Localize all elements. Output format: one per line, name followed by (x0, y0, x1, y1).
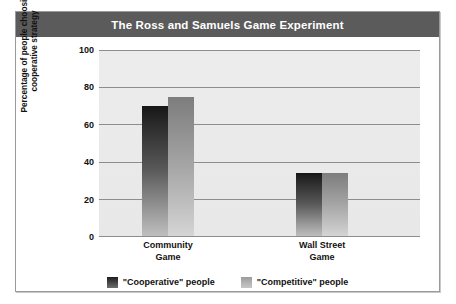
y-axis-tick-labels: 020406080100 (60, 50, 94, 237)
gridline (99, 87, 420, 88)
y-axis-tick-label: 20 (64, 195, 94, 205)
legend-item[interactable]: "Competitive" people (241, 277, 349, 288)
gridline (99, 50, 420, 51)
y-axis-tick-label: 60 (64, 120, 94, 130)
legend-label: "Competitive" people (257, 277, 349, 287)
chart-body: Percentage of people choosing cooperativ… (16, 37, 439, 293)
chart-legend: "Cooperative" people"Competitive" people (16, 273, 439, 291)
legend-color-swatch (241, 277, 252, 288)
legend-color-swatch (107, 277, 118, 288)
y-axis-tick-label: 0 (64, 232, 94, 242)
x-axis-category-label: Wall Street Game (299, 240, 345, 263)
chart-figure-panel: The Ross and Samuels Game Experiment Per… (15, 11, 440, 292)
bar (296, 173, 322, 237)
bar (322, 173, 348, 237)
page-title: The Ross and Samuels Game Experiment (111, 19, 343, 31)
y-axis-tick-label: 80 (64, 82, 94, 92)
legend-label: "Cooperative" people (123, 277, 215, 287)
x-axis-category-labels: Community GameWall Street Game (99, 240, 420, 270)
y-axis-tick-label: 100 (64, 45, 94, 55)
x-axis-category-label: Community Game (143, 240, 193, 263)
plot-area (99, 50, 420, 237)
y-axis-tick-label: 40 (64, 157, 94, 167)
chart-title-bar: The Ross and Samuels Game Experiment (16, 12, 439, 37)
bar (168, 97, 194, 237)
legend-item[interactable]: "Cooperative" people (107, 277, 215, 288)
axis-baseline (99, 236, 420, 237)
y-axis-title: Percentage of people choosing cooperativ… (20, 0, 38, 131)
bar (142, 106, 168, 237)
